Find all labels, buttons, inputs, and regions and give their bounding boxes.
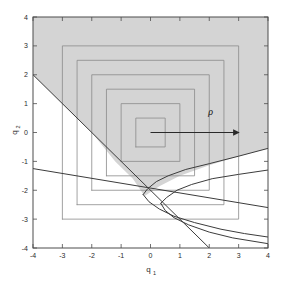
y-tick-label: 0: [24, 129, 28, 136]
figure-container: -4-3-2-101234 -4-3-2-101234 q 1 q 2 ρ: [0, 0, 285, 289]
y-tick-label: -4: [22, 245, 28, 252]
x-tick-label: 0: [149, 252, 153, 259]
x-tick-label: -3: [59, 252, 65, 259]
x-tick-label: 3: [237, 252, 241, 259]
y-tick-label: -2: [22, 187, 28, 194]
rho-label: ρ: [207, 106, 213, 117]
x-tick-label: 2: [207, 252, 211, 259]
x-tick-label: -1: [118, 252, 124, 259]
y-axis-label-subscript: 2: [15, 125, 21, 128]
y-axis-label: q: [10, 130, 19, 134]
x-tick-label: 4: [266, 252, 270, 259]
x-tick-label: 1: [178, 252, 182, 259]
y-tick-label: 4: [24, 14, 28, 21]
x-tick-label: -2: [89, 252, 95, 259]
y-tick-label: -3: [22, 216, 28, 223]
y-tick-label: -1: [22, 158, 28, 165]
x-axis-label: q: [146, 265, 150, 274]
x-tick-label: -4: [30, 252, 36, 259]
chart-canvas: -4-3-2-101234 -4-3-2-101234 q 1 q 2 ρ: [0, 0, 285, 289]
x-axis-label-subscript: 1: [153, 270, 156, 276]
y-tick-label: 2: [24, 71, 28, 78]
y-tick-label: 1: [24, 100, 28, 107]
y-tick-label: 3: [24, 42, 28, 49]
